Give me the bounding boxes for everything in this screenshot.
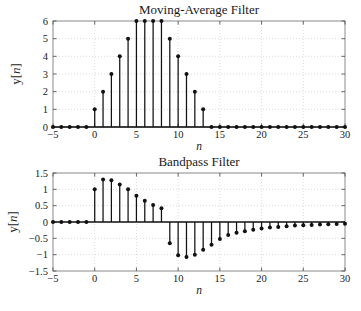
stem-marker bbox=[335, 125, 339, 129]
y-axis-label: y[n] bbox=[5, 211, 20, 233]
plot-title: Bandpass Filter bbox=[158, 155, 240, 169]
stem-marker bbox=[276, 125, 280, 129]
x-tick-label: 5 bbox=[134, 273, 139, 284]
stem-marker bbox=[134, 19, 138, 23]
bandpass-stem-plot: Bandpass Filter−1.5−1−0.500.511.5−505101… bbox=[0, 155, 361, 311]
plot-title: Moving-Average Filter bbox=[139, 2, 260, 17]
figure-root: Moving-Average Filter0123456−50510152025… bbox=[0, 0, 361, 311]
x-tick-label: 10 bbox=[173, 273, 184, 284]
stem-marker bbox=[143, 19, 147, 23]
y-tick-label: 1.5 bbox=[35, 168, 48, 179]
stem-marker bbox=[159, 19, 163, 23]
stem-marker bbox=[251, 228, 255, 232]
y-tick-label: 3 bbox=[43, 69, 48, 80]
stem-marker bbox=[226, 125, 230, 129]
stem-marker bbox=[134, 194, 138, 198]
stem-marker bbox=[293, 224, 297, 228]
stem-marker bbox=[101, 90, 105, 94]
stem-marker bbox=[193, 253, 197, 257]
stem-marker bbox=[93, 187, 97, 191]
y-tick-label: −1.5 bbox=[29, 266, 48, 277]
x-tick-label: 5 bbox=[134, 129, 139, 140]
y-tick-label: −1 bbox=[37, 249, 48, 260]
stem-marker bbox=[59, 125, 63, 129]
x-tick-label: 15 bbox=[215, 129, 226, 140]
x-tick-label: 25 bbox=[298, 129, 309, 140]
y-tick-label: 1 bbox=[43, 184, 48, 195]
x-tick-label: 10 bbox=[173, 129, 184, 140]
moving-average-stem-plot: Moving-Average Filter0123456−50510152025… bbox=[0, 0, 361, 155]
y-tick-label: −0.5 bbox=[29, 233, 48, 244]
stem-marker bbox=[59, 220, 63, 224]
stem-marker bbox=[301, 223, 305, 227]
x-tick-label: 0 bbox=[92, 273, 97, 284]
stem-marker bbox=[276, 225, 280, 229]
stem-marker bbox=[201, 248, 205, 252]
stem-marker bbox=[310, 125, 314, 129]
stem-marker bbox=[68, 125, 72, 129]
stem-marker bbox=[243, 229, 247, 233]
x-tick-labels: −5051015202530 bbox=[47, 273, 350, 284]
stem-marker bbox=[201, 107, 205, 111]
x-axis-label: n bbox=[196, 140, 202, 152]
y-tick-label: 0.5 bbox=[35, 200, 48, 211]
stem-marker bbox=[243, 125, 247, 129]
y-tick-label: 2 bbox=[43, 86, 48, 97]
stem-marker bbox=[326, 222, 330, 226]
stem-marker bbox=[184, 255, 188, 259]
stem-marker bbox=[93, 107, 97, 111]
stem-marker bbox=[285, 125, 289, 129]
stem-marker bbox=[335, 222, 339, 226]
y-tick-labels: −1.5−1−0.500.511.5 bbox=[29, 168, 48, 277]
chart-panel-bandpass: Bandpass Filter−1.5−1−0.500.511.5−505101… bbox=[0, 155, 361, 311]
x-tick-label: 30 bbox=[340, 273, 351, 284]
stem-marker bbox=[193, 90, 197, 94]
stem-marker bbox=[176, 253, 180, 257]
x-tick-label: 20 bbox=[256, 129, 267, 140]
stem-marker bbox=[143, 199, 147, 203]
stem-marker bbox=[126, 37, 130, 41]
stem-marker bbox=[68, 220, 72, 224]
y-axis-label: y[n] bbox=[8, 63, 23, 85]
x-tick-label: 15 bbox=[215, 273, 226, 284]
stem-marker bbox=[109, 178, 113, 182]
stem-marker bbox=[285, 224, 289, 228]
stem-marker bbox=[343, 222, 347, 226]
stem-marker bbox=[151, 19, 155, 23]
stem-marker bbox=[184, 72, 188, 76]
stem-marker bbox=[268, 226, 272, 230]
tick-marks bbox=[53, 21, 345, 127]
stem-marker bbox=[210, 125, 214, 129]
stem-marker bbox=[251, 125, 255, 129]
y-tick-label: 0 bbox=[43, 217, 48, 228]
x-tick-labels: −5051015202530 bbox=[47, 129, 350, 140]
stem-marker bbox=[260, 227, 264, 231]
x-tick-label: 25 bbox=[298, 273, 309, 284]
stem-marker bbox=[343, 125, 347, 129]
stem-marker bbox=[260, 125, 264, 129]
stem-marker bbox=[326, 125, 330, 129]
gridlines bbox=[53, 21, 345, 127]
y-tick-label: 1 bbox=[43, 104, 48, 115]
x-tick-label: 20 bbox=[256, 273, 267, 284]
stem-marker bbox=[168, 241, 172, 245]
x-axis-label: n bbox=[196, 284, 202, 296]
stem-marker bbox=[218, 237, 222, 241]
stem-marker bbox=[118, 54, 122, 58]
stem-marker bbox=[235, 125, 239, 129]
stem-marker bbox=[51, 125, 55, 129]
stem-marker bbox=[293, 125, 297, 129]
plot-frame bbox=[53, 21, 345, 127]
stem-marker bbox=[76, 125, 80, 129]
stem-marker bbox=[310, 223, 314, 227]
y-tick-labels: 0123456 bbox=[43, 16, 49, 133]
stem-marker bbox=[301, 125, 305, 129]
stem-marker bbox=[235, 231, 239, 235]
y-tick-label: 6 bbox=[43, 16, 48, 27]
stem-marker bbox=[126, 187, 130, 191]
y-tick-label: 5 bbox=[43, 33, 48, 44]
y-tick-label: 4 bbox=[43, 51, 49, 62]
stem-marker bbox=[226, 233, 230, 237]
stem-marker bbox=[76, 220, 80, 224]
x-tick-label: −5 bbox=[47, 129, 58, 140]
